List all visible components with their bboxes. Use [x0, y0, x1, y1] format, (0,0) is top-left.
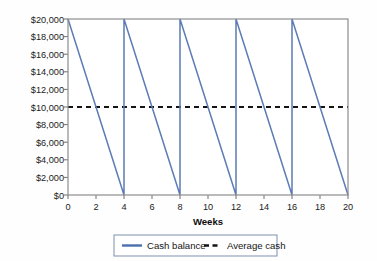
x-tick-label: 18 — [315, 202, 325, 212]
x-tick-label: 8 — [177, 202, 182, 212]
y-tick-label: $4,000 — [36, 155, 64, 165]
legend-label-cash-balance: Cash balance — [147, 240, 206, 251]
x-tick-label: 12 — [231, 202, 241, 212]
x-tick-label: 16 — [287, 202, 297, 212]
y-tick-label: $0 — [54, 191, 64, 201]
x-tick-label: 20 — [343, 202, 353, 212]
y-tick-label: $16,000 — [31, 50, 64, 60]
y-axis-tick-labels: $20,000 $18,000 $16,000 $14,000 $12,000 … — [31, 15, 64, 201]
cash-balance-chart: $20,000 $18,000 $16,000 $14,000 $12,000 … — [0, 0, 377, 261]
x-tick-label: 6 — [149, 202, 154, 212]
x-tick-label: 10 — [203, 202, 213, 212]
x-axis-tick-labels: 0 2 4 6 8 10 12 14 16 18 20 — [65, 202, 353, 212]
x-axis-title: Weeks — [193, 216, 223, 227]
y-tick-label: $18,000 — [31, 32, 64, 42]
x-tick-label: 4 — [121, 202, 126, 212]
y-tick-label: $14,000 — [31, 67, 64, 77]
y-tick-label: $2,000 — [36, 173, 64, 183]
x-tick-label: 2 — [93, 202, 98, 212]
y-tick-label: $12,000 — [31, 85, 64, 95]
legend-label-average-cash: Average cash — [227, 240, 286, 251]
y-tick-label: $6,000 — [36, 138, 64, 148]
x-axis-tick-marks — [68, 195, 348, 199]
x-tick-label: 14 — [259, 202, 269, 212]
y-tick-label: $8,000 — [36, 120, 64, 130]
x-tick-label: 0 — [65, 202, 70, 212]
y-tick-label: $10,000 — [31, 103, 64, 113]
chart-legend: Cash balance Average cash — [114, 235, 286, 256]
chart-canvas: $20,000 $18,000 $16,000 $14,000 $12,000 … — [0, 0, 377, 261]
y-tick-label: $20,000 — [31, 15, 64, 25]
